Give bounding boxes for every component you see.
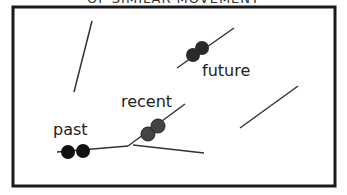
frame-border — [13, 7, 335, 186]
label-future: future — [202, 61, 250, 80]
recent-dot-2 — [151, 119, 165, 133]
trajectory-diagram: past recent future — [0, 0, 347, 195]
trajectory-line-1 — [74, 21, 92, 92]
label-recent: recent — [121, 92, 172, 111]
future-dot-2 — [195, 41, 209, 55]
past-dot-1 — [61, 145, 75, 159]
label-past: past — [53, 120, 88, 139]
past-dot-2 — [76, 144, 90, 158]
trajectory-line-branch — [133, 145, 204, 153]
trajectory-line-4 — [240, 86, 298, 128]
